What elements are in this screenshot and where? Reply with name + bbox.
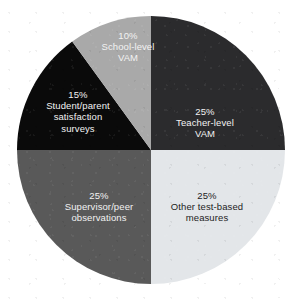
pie-slice-other-test-based-measures[interactable] xyxy=(151,150,285,284)
pie-chart-figure: 25% Teacher-level VAM 25% Other test-bas… xyxy=(0,0,302,299)
pie-slice-supervisor-peer-observations[interactable] xyxy=(17,150,151,284)
pie-slice-teacher-level-vam[interactable] xyxy=(151,16,285,150)
pie-chart-svg xyxy=(0,0,302,299)
